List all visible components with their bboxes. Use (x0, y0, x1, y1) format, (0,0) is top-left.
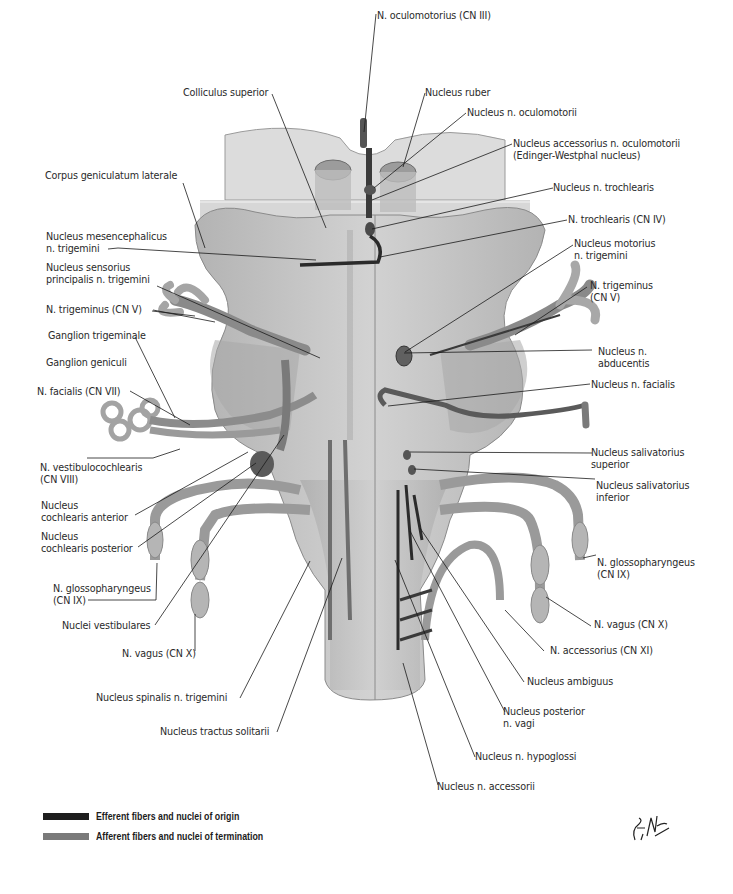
label-line: inferior (596, 492, 689, 504)
label-n-glossopharyngeus-right: N. glossopharyngeus (CN IX) (597, 557, 695, 581)
label-nucleus-cochlearis-posterior: Nucleus cochlearis posterior (41, 531, 133, 555)
label-line: n. trigemini (574, 250, 655, 262)
label-n-accessorius: N. accessorius (CN XI) (550, 645, 653, 657)
label-line: Nucleus n. (598, 346, 649, 358)
label-nucleus-posterior-vagi: Nucleus posterior n. vagi (503, 706, 585, 730)
label-line: (Edinger-Westphal nucleus) (513, 150, 680, 162)
label-nucleus-accessorius: Nucleus accessorius n. oculomotorii (Edi… (513, 138, 680, 162)
label-line: Nucleus (41, 531, 133, 543)
label-line: Nucleus motorius (574, 238, 655, 250)
label-line: N. glossopharyngeus (597, 557, 695, 569)
label-nucleus-spinalis: Nucleus spinalis n. trigemini (96, 692, 227, 704)
label-nuclei-vestibulares: Nuclei vestibulares (62, 620, 150, 632)
label-line: Nucleus mesencephalicus (46, 231, 167, 243)
label-line: cochlearis posterior (41, 543, 133, 555)
label-n-trigeminus-right: N. trigeminus (CN V) (590, 280, 653, 304)
label-line: Nucleus sensorius (46, 262, 150, 274)
legend-item-efferent: Efferent fibers and nuclei of origin (43, 806, 286, 826)
label-line: (CN VIII) (40, 474, 142, 486)
label-nucleus-n-oculomotorii: Nucleus n. oculomotorii (467, 107, 577, 119)
label-line: Nucleus salivatorius (591, 447, 684, 459)
label-line: (CN IX) (53, 595, 151, 607)
legend: Efferent fibers and nuclei of origin Aff… (43, 806, 286, 846)
label-n-oculomotorius: N. oculomotorius (CN III) (377, 10, 491, 22)
label-nucleus-salivatorius-superior: Nucleus salivatorius superior (591, 447, 684, 471)
label-colliculus-superior: Colliculus superior (183, 87, 268, 99)
label-line: n. trigemini (46, 243, 167, 255)
label-line: principalis n. trigemini (46, 274, 150, 286)
afferent-swatch (43, 833, 89, 840)
label-n-glossopharyngeus-left: N. glossopharyngeus (CN IX) (53, 583, 151, 607)
label-nucleus-ambiguus: Nucleus ambiguus (527, 676, 613, 688)
efferent-swatch (43, 813, 89, 820)
label-corpus-geniculatum: Corpus geniculatum laterale (45, 170, 177, 182)
label-nucleus-cochlearis-anterior: Nucleus cochlearis anterior (41, 500, 128, 524)
label-line: superior (591, 459, 684, 471)
label-line: N. glossopharyngeus (53, 583, 151, 595)
label-line: Nucleus salivatorius (596, 480, 689, 492)
label-nucleus-motorius: Nucleus motorius n. trigemini (574, 238, 655, 262)
artist-signature-icon (627, 810, 673, 846)
legend-label: Afferent fibers and nuclei of terminatio… (96, 831, 263, 842)
label-nucleus-ruber: Nucleus ruber (425, 87, 490, 99)
label-n-trochlearis: N. trochlearis (CN IV) (568, 214, 666, 226)
label-nucleus-n-hypoglossi: Nucleus n. hypoglossi (475, 751, 576, 763)
label-nucleus-salivatorius-inferior: Nucleus salivatorius inferior (596, 480, 689, 504)
legend-item-afferent: Afferent fibers and nuclei of terminatio… (43, 826, 286, 846)
label-nucleus-n-accessorii: Nucleus n. accessorii (437, 781, 535, 793)
label-line: cochlearis anterior (41, 512, 128, 524)
cn3-nerve (360, 118, 367, 148)
anatomy-figure: N. oculomotorius (CN III) Nucleus ruber … (0, 0, 733, 894)
label-nucleus-n-facialis: Nucleus n. facialis (591, 379, 675, 391)
label-line: abducentis (598, 358, 649, 370)
label-line: Nucleus (41, 500, 128, 512)
label-line: Nucleus accessorius n. oculomotorii (513, 138, 680, 150)
label-line: N. trigeminus (590, 280, 653, 292)
label-nucleus-n-trochlearis: Nucleus n. trochlearis (553, 182, 654, 194)
label-n-vagus-left: N. vagus (CN X) (122, 648, 196, 660)
label-line: n. vagi (503, 718, 585, 730)
label-nucleus-tractus-solitarii: Nucleus tractus solitarii (160, 726, 269, 738)
label-line: Nucleus posterior (503, 706, 585, 718)
label-line: (CN IX) (597, 569, 695, 581)
legend-label: Efferent fibers and nuclei of origin (96, 811, 239, 822)
label-ganglion-geniculi: Ganglion geniculi (46, 357, 127, 369)
label-n-vestibulocochlearis: N. vestibulocochlearis (CN VIII) (40, 462, 142, 486)
label-nucleus-mesencephalicus: Nucleus mesencephalicus n. trigemini (46, 231, 167, 255)
label-n-facialis: N. facialis (CN VII) (37, 386, 120, 398)
label-nucleus-abducentis: Nucleus n. abducentis (598, 346, 649, 370)
label-n-trigeminus-left: N. trigeminus (CN V) (46, 304, 142, 316)
label-n-vagus-right: N. vagus (CN X) (594, 619, 668, 631)
label-ganglion-trigeminale: Ganglion trigeminale (48, 330, 146, 342)
label-nucleus-sensorius: Nucleus sensorius principalis n. trigemi… (46, 262, 150, 286)
label-line: N. vestibulocochlearis (40, 462, 142, 474)
label-line: (CN V) (590, 292, 653, 304)
